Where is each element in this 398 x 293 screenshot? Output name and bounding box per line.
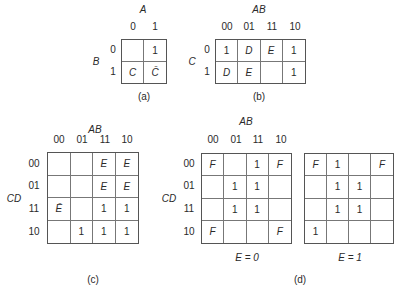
row-label: 01 (28, 180, 39, 192)
kmap-cell (71, 176, 94, 199)
kmap-cell (247, 221, 269, 243)
kmap-grid-e0: F 1 F 1 1 1 1 F F (201, 153, 292, 244)
col-label: 11 (253, 134, 263, 146)
kmap-cell: 1 (349, 176, 371, 198)
col-label: 00 (207, 134, 218, 146)
row-label: 1 (110, 66, 116, 78)
kmap-cell: F (371, 154, 393, 176)
kmap-cell: 1 (349, 199, 371, 221)
caption: (b) (253, 91, 265, 103)
kmap-cell: 1 (93, 221, 116, 244)
kmap-cell (305, 176, 327, 198)
kmap-cell: 1 (327, 176, 349, 198)
sub-map-label-e1: E = 1 (338, 252, 362, 264)
col-label: 01 (243, 21, 254, 33)
kmap-cell (202, 176, 224, 198)
kmap-cell: 1 (116, 198, 139, 221)
kmap-cell: 1 (283, 62, 305, 84)
col-label: 01 (76, 134, 87, 146)
kmap-cell (261, 62, 283, 84)
kmap-cell (48, 153, 71, 176)
kmap-cell: E (116, 153, 139, 176)
kmap-cell (371, 176, 393, 198)
col-label: 1 (152, 21, 158, 33)
kmap-cell (224, 221, 246, 243)
row-label: 01 (183, 180, 194, 192)
col-label: 10 (275, 134, 286, 146)
kmap-cell: D (216, 62, 238, 84)
row-label: 10 (183, 226, 194, 238)
caption: (c) (87, 274, 99, 286)
kmap-cell (71, 198, 94, 221)
row-label: 1 (204, 66, 210, 78)
kmap-cell: F (269, 154, 291, 176)
kmap-cell: 1 (283, 40, 305, 62)
kmap-cell: 1 (216, 40, 238, 62)
kmap-cell: F (269, 221, 291, 243)
kmap-cell (71, 153, 94, 176)
col-label: 11 (100, 134, 110, 146)
kmap-cell: 1 (247, 176, 269, 198)
kmap-cell (269, 199, 291, 221)
col-variable-label: AB (252, 4, 265, 16)
row-label: 11 (29, 203, 39, 215)
kmap-cell (371, 199, 393, 221)
kmap-cell: 1 (327, 154, 349, 176)
kmap-cell (224, 154, 246, 176)
kmap-cell: D (238, 40, 260, 62)
kmap-cell: F (202, 154, 224, 176)
col-label: 0 (130, 21, 136, 33)
kmap-cell: E (238, 62, 260, 84)
kmap-grid: E E E E Ē 1 1 1 1 1 (47, 152, 139, 244)
kmap-cell: 1 (116, 221, 139, 244)
row-label: 0 (204, 44, 210, 56)
kmap-cell: 1 (224, 176, 246, 198)
col-label: 01 (230, 134, 241, 146)
caption: (d) (294, 274, 306, 286)
row-variable-label: CD (7, 193, 21, 205)
row-variable-label: C (188, 56, 195, 68)
kmap-cell: 1 (93, 198, 116, 221)
kmap-cell: 1 (71, 221, 94, 244)
kmap-cell: Ē (48, 198, 71, 221)
row-label: 00 (28, 158, 39, 170)
kmap-cell (202, 199, 224, 221)
kmap-cell (349, 154, 371, 176)
kmap-cell (349, 221, 371, 243)
row-variable-label: B (93, 56, 100, 68)
kmap-cell (48, 221, 71, 244)
kmap-cell: E (93, 176, 116, 199)
kmap-cell: E (93, 153, 116, 176)
kmap-cell: C (122, 62, 144, 84)
kmap-grid: 1 C C̄ (121, 39, 167, 84)
row-label: 11 (184, 203, 194, 215)
sub-map-label-e0: E = 0 (235, 252, 259, 264)
kmap-cell (269, 176, 291, 198)
col-variable-label: A (140, 4, 147, 16)
caption: (a) (138, 91, 150, 103)
col-label: 10 (289, 21, 300, 33)
kmap-grid-e1: F 1 F 1 1 1 1 1 (304, 153, 394, 244)
col-label: 00 (53, 134, 64, 146)
kmap-grid: 1 D E 1 D E 1 (215, 39, 306, 84)
row-label: 10 (28, 226, 39, 238)
kmap-cell: E (116, 176, 139, 199)
kmap-cell: 1 (224, 199, 246, 221)
kmap-cell: 1 (327, 199, 349, 221)
col-label: 00 (221, 21, 232, 33)
kmap-cell (122, 40, 144, 62)
kmap-cell: 1 (247, 154, 269, 176)
kmap-cell: F (305, 154, 327, 176)
kmap-cell (305, 199, 327, 221)
kmap-cell: C̄ (144, 62, 166, 84)
kmap-cell (327, 221, 349, 243)
row-label: 0 (110, 44, 116, 56)
col-variable-label: AB (239, 116, 252, 128)
row-label: 00 (183, 158, 194, 170)
kmap-cell: 1 (144, 40, 166, 62)
row-variable-label: CD (162, 193, 176, 205)
col-label: 10 (121, 134, 132, 146)
kmap-cell: E (261, 40, 283, 62)
kmap-cell: F (202, 221, 224, 243)
kmap-cell (48, 176, 71, 199)
